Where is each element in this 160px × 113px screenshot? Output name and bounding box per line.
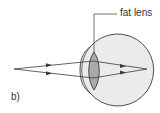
arrow-icon [46, 63, 52, 67]
arrow-icon [46, 71, 52, 75]
lens-label: fat lens [120, 7, 152, 18]
panel-label: b) [11, 91, 20, 102]
